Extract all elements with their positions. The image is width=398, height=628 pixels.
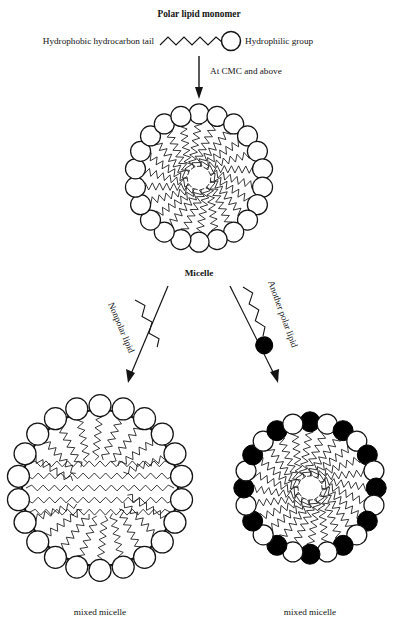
monomer-head-circle <box>222 32 241 51</box>
lipid-tail <box>252 472 299 495</box>
lipid-head-open <box>89 395 111 417</box>
lipid-tail <box>168 190 202 227</box>
nonpolar-lipid-label: Nonpolar lipid <box>106 301 136 355</box>
lipid-tail <box>119 509 142 552</box>
mixed-micelle-nonpolar-structure <box>7 395 192 582</box>
lipid-tail <box>268 500 310 531</box>
lipid-head-open <box>171 106 191 126</box>
lipid-head-open <box>14 511 36 533</box>
lipid-head-open <box>134 408 156 430</box>
lipid-head-open <box>125 159 145 179</box>
hydrophilic-group-label: Hydrophilic group <box>245 36 314 46</box>
lipid-head-open <box>112 556 134 578</box>
nonpolar-tail-zigzag <box>135 297 162 348</box>
lipid-head-open <box>27 423 49 445</box>
lipid-head-open <box>171 489 193 511</box>
lipid-head-open <box>27 531 49 553</box>
lipid-head-open <box>44 546 66 568</box>
nonpolar-lipid-glyph <box>135 297 162 348</box>
lipid-head-open <box>125 177 145 197</box>
lipid-head-open <box>66 556 88 578</box>
lipid-tail <box>43 438 76 473</box>
lipid-head-open <box>7 489 29 511</box>
another-polar-lipid-label: Another polar lipid <box>266 279 300 349</box>
lipid-tail <box>322 488 353 530</box>
another-polar-lipid-glyph <box>235 284 275 356</box>
lipid-head-open <box>151 531 173 553</box>
lipid-head-open <box>112 398 134 420</box>
lipid-tail <box>110 513 123 561</box>
lipid-tail <box>310 445 352 476</box>
nonpolar-chain <box>30 509 170 515</box>
lipid-tail <box>294 499 317 546</box>
lipid-head-open <box>66 398 88 420</box>
lipid-head-open <box>7 465 29 487</box>
lipid-tail <box>93 412 103 460</box>
lipid-tail <box>267 446 298 488</box>
lipid-head-open <box>171 465 193 487</box>
mixed-micelle-polar-structure <box>234 412 386 564</box>
branch-arrow-polar <box>230 286 279 383</box>
lipid-tail <box>77 516 97 561</box>
lipid-head-open <box>89 559 111 581</box>
lipid-head-open <box>164 443 186 465</box>
monomer-title: Polar lipid monomer <box>157 9 240 19</box>
nonpolar-chain <box>27 497 173 503</box>
mixed-micelle-polar-label: mixed micelle <box>284 607 336 617</box>
lipid-head-open <box>247 141 267 161</box>
lipid-head-open <box>189 104 209 124</box>
micelle-label: Micelle <box>185 268 214 278</box>
lipid-head-open <box>207 230 227 250</box>
lipid-tail <box>303 430 326 477</box>
cmc-arrow-label: At CMC and above <box>210 66 282 76</box>
lipid-head-open <box>164 511 186 533</box>
lipid-head-open <box>253 159 273 179</box>
nonpolar-chain <box>26 485 174 491</box>
nonpolar-chain <box>30 461 170 467</box>
micelle-head-groups <box>234 412 386 564</box>
monomer-glyph <box>160 32 241 51</box>
lipid-tail <box>102 415 122 460</box>
monomer-tail-zigzag <box>160 37 222 45</box>
lipid-tail <box>321 481 368 504</box>
cmc-arrow <box>195 56 203 99</box>
lipid-head-open <box>253 177 273 197</box>
polar-tail-zigzag <box>243 285 268 337</box>
lipid-head-open <box>44 408 66 430</box>
hydrophobic-tail-label: Hydrophobic hydrocarbon tail <box>43 36 155 46</box>
lipid-head-open <box>131 195 151 215</box>
lipid-tail <box>97 516 107 564</box>
lipid-head-open <box>189 232 209 252</box>
lipid-tail <box>124 503 157 538</box>
polar-head-circle-filled <box>253 334 275 356</box>
lipid-head-open <box>151 423 173 445</box>
lipid-head-open <box>14 443 36 465</box>
micelle-formation-diagram: Polar lipid monomer Hydrophobic hydrocar… <box>0 0 398 628</box>
mixed-micelle-nonpolar-label: mixed micelle <box>74 607 126 617</box>
branch-arrow-nonpolar <box>126 286 168 383</box>
nonpolar-chain <box>27 473 173 479</box>
micelle-structure <box>125 104 272 252</box>
lipid-head-open <box>283 414 303 434</box>
lipid-head-open <box>134 546 156 568</box>
